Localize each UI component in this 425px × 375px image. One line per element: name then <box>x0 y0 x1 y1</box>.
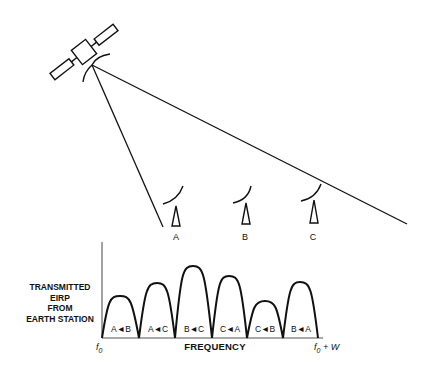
y-axis-label-line2: EIRP <box>18 293 102 304</box>
earth-station-a <box>163 186 183 226</box>
band-label-b-c: B◄C <box>176 324 212 334</box>
x-axis-label: FREQUENCY <box>160 341 270 352</box>
station-label-c: C <box>303 232 323 242</box>
band-label-a-b: A◄B <box>103 324 139 334</box>
band-label-c-b: C◄B <box>247 324 283 334</box>
earth-station-c <box>301 184 321 223</box>
earth-station-b <box>233 186 251 224</box>
x-tick-end: f0 + W <box>314 342 339 354</box>
y-axis-label: TRANSMITTED EIRP FROM EARTH STATION <box>18 282 102 324</box>
band-label-c-a: C◄A <box>212 324 248 334</box>
band-label-a-c: A◄C <box>140 324 176 334</box>
y-axis-label-line3: FROM <box>18 303 102 314</box>
y-axis-label-line1: TRANSMITTED <box>18 282 102 293</box>
x-tick-start: f0 <box>96 342 102 354</box>
y-axis-label-line4: EARTH STATION <box>18 314 102 325</box>
station-label-a: A <box>166 232 186 242</box>
band-label-b-a: B◄A <box>283 324 319 334</box>
station-label-b: B <box>235 232 255 242</box>
uplink-beam-lines <box>92 65 407 227</box>
